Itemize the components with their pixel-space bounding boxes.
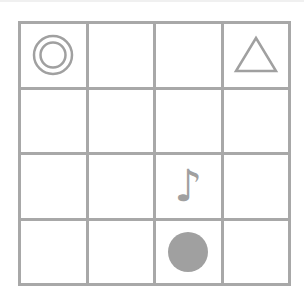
cell-r2-c1[interactable] xyxy=(89,155,154,218)
cell-r0-c2[interactable] xyxy=(156,24,221,87)
cell-r0-c1[interactable] xyxy=(89,24,154,87)
cell-r0-c3[interactable] xyxy=(224,24,289,87)
top-divider xyxy=(0,0,304,2)
cell-r3-c0[interactable] xyxy=(21,221,86,284)
game-board: ♪ xyxy=(18,21,291,286)
filled-circle-icon xyxy=(164,228,212,276)
cell-r3-c1[interactable] xyxy=(89,221,154,284)
cell-r2-c3[interactable] xyxy=(224,155,289,218)
cell-r2-c0[interactable] xyxy=(21,155,86,218)
cell-r1-c0[interactable] xyxy=(21,90,86,153)
cell-r3-c3[interactable] xyxy=(224,221,289,284)
triangle-icon xyxy=(232,31,280,79)
cell-r1-c1[interactable] xyxy=(89,90,154,153)
cell-r0-c0[interactable] xyxy=(21,24,86,87)
double-circle-icon xyxy=(29,31,77,79)
music-note-icon: ♪ xyxy=(174,164,202,208)
cell-r3-c2[interactable] xyxy=(156,221,221,284)
cell-r1-c3[interactable] xyxy=(224,90,289,153)
cell-r1-c2[interactable] xyxy=(156,90,221,153)
cell-r2-c2[interactable]: ♪ xyxy=(156,155,221,218)
